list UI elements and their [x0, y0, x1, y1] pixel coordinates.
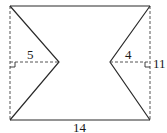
left-right-angle-marker [10, 62, 15, 67]
right-right-angle-marker [145, 62, 150, 67]
label-right-notch-depth: 4 [125, 47, 132, 62]
geometry-diagram: 5 4 11 14 [0, 0, 167, 133]
label-height: 11 [153, 56, 166, 71]
left-notch [10, 6, 59, 120]
label-width: 14 [73, 120, 87, 133]
label-left-notch-depth: 5 [27, 47, 34, 62]
right-notch [110, 6, 150, 120]
